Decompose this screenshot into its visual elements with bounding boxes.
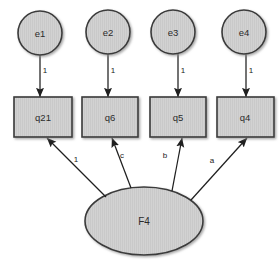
loading-arrow-q5[interactable] — [172, 138, 182, 191]
error-circle-label-e2: e2 — [103, 27, 114, 38]
error-circle-label-e4: e4 — [239, 27, 250, 38]
error-term-e1[interactable]: e1 — [18, 11, 62, 55]
error-label-q6: 1 — [111, 66, 116, 75]
loading-arrow-q6[interactable] — [112, 138, 131, 188]
indicator-label-q4: q4 — [240, 112, 251, 123]
sem-path-diagram: F4 1 c b a 1 — [0, 0, 280, 271]
indicator-q21[interactable]: q21 — [14, 97, 72, 137]
factor-label: F4 — [138, 216, 150, 227]
indicator-label-q21: q21 — [35, 112, 51, 123]
loading-path-F4-q4[interactable]: a — [191, 138, 247, 200]
indicators-group: q21 q6 q5 q4 — [14, 97, 274, 137]
error-label-q5: 1 — [181, 66, 186, 75]
loading-path-F4-q5[interactable]: b — [163, 138, 182, 191]
latent-factor-F4[interactable]: F4 — [85, 187, 203, 255]
error-label-q4: 1 — [249, 66, 254, 75]
loading-arrow-q21[interactable] — [47, 138, 106, 197]
indicator-label-q5: q5 — [173, 112, 184, 123]
error-path-e2-q6[interactable]: 1 — [108, 54, 116, 97]
error-label-q21: 1 — [43, 66, 48, 75]
loading-label-q5: b — [163, 151, 168, 160]
loading-label-q21: 1 — [74, 155, 79, 164]
error-path-e3-q5[interactable]: 1 — [178, 54, 186, 97]
error-path-e1-q21[interactable]: 1 — [40, 55, 48, 97]
loading-arrow-q4[interactable] — [191, 138, 247, 200]
loading-path-F4-q21[interactable]: 1 — [47, 138, 106, 197]
error-terms-group: e1 e2 e3 e4 — [18, 10, 266, 55]
error-term-e2[interactable]: e2 — [86, 10, 130, 54]
error-paths-group: 1 1 1 1 — [40, 54, 254, 97]
indicator-label-q6: q6 — [105, 112, 116, 123]
error-circle-label-e1: e1 — [35, 28, 46, 39]
indicator-q5[interactable]: q5 — [150, 97, 206, 137]
loading-path-F4-q6[interactable]: c — [112, 138, 131, 188]
diagram-canvas: F4 1 c b a 1 — [0, 0, 280, 271]
loading-label-q6: c — [120, 151, 124, 160]
error-path-e4-q4[interactable]: 1 — [246, 54, 254, 97]
indicator-q4[interactable]: q4 — [217, 97, 274, 137]
error-term-e3[interactable]: e3 — [151, 10, 195, 54]
indicator-q6[interactable]: q6 — [82, 97, 138, 137]
error-circle-label-e3: e3 — [168, 27, 179, 38]
error-term-e4[interactable]: e4 — [222, 10, 266, 54]
loading-label-q4: a — [210, 156, 215, 165]
